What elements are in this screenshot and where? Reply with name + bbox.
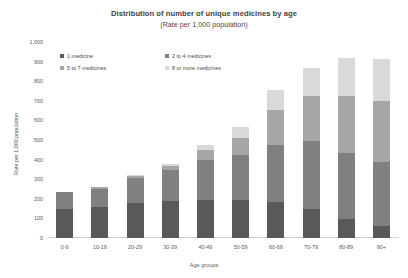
stacked-bar[interactable] (127, 175, 144, 238)
stacked-bar[interactable] (373, 59, 390, 238)
stacked-bar[interactable] (267, 90, 284, 238)
bar-segment[interactable] (127, 203, 144, 238)
x-axis-tick-label: 90+ (377, 244, 386, 250)
bar-segment[interactable] (162, 201, 179, 238)
y-axis-tick-label: 0 (40, 235, 43, 241)
y-axis-tick-label: 100 (34, 215, 43, 221)
bar-segment[interactable] (232, 138, 249, 155)
bar-segment[interactable] (373, 162, 390, 227)
y-axis-tick-label: 600 (34, 117, 43, 123)
bar-group[interactable]: 40-49 (188, 42, 223, 238)
y-axis-tick-label: 1,000 (30, 39, 44, 45)
stacked-bar[interactable] (162, 164, 179, 238)
stacked-bar[interactable] (91, 187, 108, 238)
stacked-bar[interactable] (56, 192, 73, 238)
x-axis-title: Age groups (0, 262, 408, 268)
stacked-bar[interactable] (197, 145, 214, 238)
bar-series-group: 0-910-1920-2930-3940-4950-5960-6970-7980… (47, 42, 399, 238)
bar-group[interactable]: 50-59 (223, 42, 258, 238)
bar-segment[interactable] (267, 202, 284, 238)
x-axis-tick-label: 60-69 (269, 244, 283, 250)
bar-group[interactable]: 70-79 (293, 42, 328, 238)
x-axis-tick-label: 20-29 (128, 244, 142, 250)
bar-segment[interactable] (338, 219, 355, 238)
plot-area: 01002003004005006007008009001,000 0-910-… (47, 42, 399, 238)
x-axis-tick-label: 40-49 (199, 244, 213, 250)
y-axis-tick-label: 300 (34, 176, 43, 182)
bar-segment[interactable] (91, 189, 108, 207)
chart-subtitle: (Rate per 1,000 population) (0, 19, 408, 30)
bar-segment[interactable] (303, 209, 320, 238)
y-axis-tick-label: 700 (34, 98, 43, 104)
x-axis-tick-label: 30-39 (163, 244, 177, 250)
bar-segment[interactable] (127, 178, 144, 203)
bar-group[interactable]: 80-89 (329, 42, 364, 238)
y-axis-title: Rate per 1,000 population (13, 113, 19, 175)
x-axis-tick-label: 70-79 (304, 244, 318, 250)
stacked-bar[interactable] (232, 127, 249, 238)
stacked-bar[interactable] (303, 68, 320, 238)
bar-group[interactable]: 90+ (364, 42, 399, 238)
bar-segment[interactable] (373, 59, 390, 101)
bar-segment[interactable] (56, 209, 73, 238)
bar-segment[interactable] (197, 150, 214, 160)
bar-group[interactable]: 60-69 (258, 42, 293, 238)
bar-segment[interactable] (232, 155, 249, 200)
x-axis-tick-label: 50-59 (234, 244, 248, 250)
y-axis-tick-label: 400 (34, 157, 43, 163)
y-axis-tick-label: 800 (34, 78, 43, 84)
bar-segment[interactable] (373, 101, 390, 162)
stacked-bar[interactable] (338, 58, 355, 238)
bar-segment[interactable] (303, 96, 320, 141)
x-axis-tick-label: 10-19 (93, 244, 107, 250)
bar-segment[interactable] (338, 96, 355, 153)
bar-segment[interactable] (56, 192, 73, 208)
bar-group[interactable]: 10-19 (82, 42, 117, 238)
bar-segment[interactable] (303, 141, 320, 209)
chart-container: Distribution of number of unique medicin… (0, 0, 408, 278)
chart-title: Distribution of number of unique medicin… (0, 8, 408, 19)
bar-segment[interactable] (373, 226, 390, 238)
bar-group[interactable]: 0-9 (47, 42, 82, 238)
bar-segment[interactable] (338, 58, 355, 96)
x-axis-tick-label: 0-9 (61, 244, 69, 250)
x-axis-tick-label: 80-89 (339, 244, 353, 250)
bar-segment[interactable] (197, 200, 214, 238)
bar-segment[interactable] (91, 207, 108, 238)
bar-group[interactable]: 20-29 (117, 42, 152, 238)
bar-segment[interactable] (267, 145, 284, 202)
chart-title-block: Distribution of number of unique medicin… (0, 8, 408, 30)
bar-segment[interactable] (232, 127, 249, 138)
y-axis-tick-label: 200 (34, 196, 43, 202)
bar-segment[interactable] (162, 170, 179, 200)
bar-segment[interactable] (267, 110, 284, 145)
bar-segment[interactable] (267, 90, 284, 110)
bar-segment[interactable] (338, 153, 355, 220)
y-axis-tick-label: 500 (34, 137, 43, 143)
bar-segment[interactable] (303, 68, 320, 96)
bar-segment[interactable] (197, 160, 214, 200)
y-axis-tick-label: 900 (34, 59, 43, 65)
bar-group[interactable]: 30-39 (153, 42, 188, 238)
bar-segment[interactable] (232, 200, 249, 238)
